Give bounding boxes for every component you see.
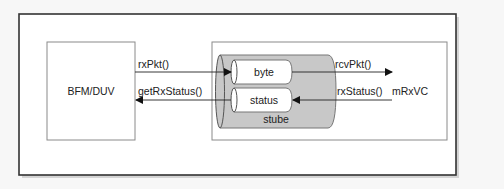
status-label: status [250, 94, 278, 106]
rxstatus-label: rxStatus() [337, 85, 383, 97]
diagram-canvas: BFM/DUV mRxVC stube byte status rxPkt() … [0, 0, 504, 189]
mrxvc-label: mRxVC [392, 85, 429, 97]
rcvpkt-label: rcvPkt() [335, 58, 371, 70]
rxpkt-label: rxPkt() [138, 58, 169, 70]
getrxstatus-label: getRxStatus() [138, 85, 202, 97]
bfm-duv-label: BFM/DUV [67, 85, 114, 97]
byte-fifo: byte [231, 60, 292, 84]
bfm-duv-block: BFM/DUV [47, 42, 135, 140]
stube-label: stube [263, 113, 289, 125]
byte-label: byte [254, 66, 274, 78]
status-fifo: status [231, 88, 292, 112]
